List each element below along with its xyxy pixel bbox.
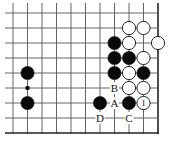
black-stone-icon (108, 66, 121, 79)
stones-layer: 1 (21, 21, 165, 109)
white-stone-icon (122, 81, 135, 94)
point-label-c: C (125, 112, 132, 124)
white-stone-icon (151, 36, 164, 49)
point-label-d: D (96, 112, 104, 124)
black-stone-icon (93, 96, 106, 109)
go-board-diagram: 1 BADC (0, 0, 172, 147)
black-stone-icon (21, 66, 34, 79)
white-stone-icon (122, 21, 135, 34)
point-label-b: B (111, 82, 118, 94)
white-stone-icon (137, 51, 150, 64)
black-stone-icon (108, 51, 121, 64)
black-stone-icon (122, 51, 135, 64)
white-stone-icon (122, 66, 135, 79)
black-stone-icon (122, 96, 135, 109)
white-stone-icon (122, 36, 135, 49)
white-stone-icon (137, 21, 150, 34)
star-point-icon (25, 86, 30, 91)
black-stone-icon (108, 36, 121, 49)
move-number: 1 (141, 98, 146, 108)
point-label-a: A (111, 97, 119, 109)
star-points (25, 86, 30, 91)
white-stone-icon (137, 81, 150, 94)
black-stone-icon (21, 96, 34, 109)
black-stone-icon (137, 66, 150, 79)
